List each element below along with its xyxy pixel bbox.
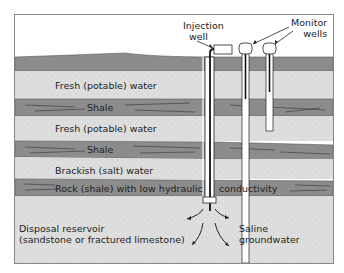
injection-label-line1: Injection [183,20,224,31]
brackish-water-label: Brackish (salt) water [55,165,153,176]
monitor-wells-label: Monitor wells [291,17,327,39]
injection-wellhead [214,45,232,54]
saline-label-line2: groundwater [239,234,300,245]
disposal-label-line1: Disposal reservoir [19,223,185,234]
diagram-frame: Injection well Monitor wells Fresh (pota… [14,14,334,264]
monitor-label-line1: Monitor [291,17,327,28]
saline-label-line1: Saline [239,223,300,234]
fresh-water-label-1: Fresh (potable) water [55,80,157,91]
shale-label-1: Shale [85,102,115,113]
monitor-wellhead-2 [263,43,276,54]
disposal-label-line2: (sandstone or fractured limestone) [19,234,185,245]
saline-groundwater-label: Saline groundwater [239,223,300,245]
monitor-label-line2: wells [291,28,327,39]
monitor-wellhead-1 [239,43,252,54]
shale-label-2: Shale [85,144,115,155]
injection-packer [203,197,216,203]
injection-well-label: Injection well [183,20,224,42]
injection-label-line2: well [183,31,224,42]
disposal-reservoir-label: Disposal reservoir (sandstone or fractur… [19,223,185,245]
rock-shale-label: Rock (shale) with low hydraulic [55,183,203,194]
conductivity-label: conductivity [219,183,277,194]
fresh-water-label-2: Fresh (potable) water [55,123,157,134]
shale-layer-1 [15,99,333,116]
